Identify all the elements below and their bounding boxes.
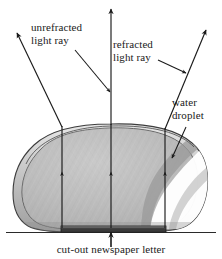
label-refracted-light-ray: refracted light ray: [113, 38, 153, 64]
leader-unrefracted-label: [75, 50, 110, 92]
label-unrefracted-line1: unrefracted: [31, 21, 82, 34]
label-water-droplet-line2: droplet: [172, 109, 204, 122]
water-droplet-shape: [12, 124, 212, 232]
label-unrefracted-light-ray: unrefracted light ray: [31, 21, 82, 47]
label-water-droplet: water droplet: [172, 96, 204, 122]
cut-out-newspaper-letter: [61, 226, 166, 232]
label-water-droplet-line1: water: [172, 96, 204, 109]
label-refracted-line2: light ray: [113, 51, 153, 64]
leader-refracted-label: [158, 60, 186, 73]
refracted-ray-left: [17, 33, 62, 127]
caption-cut-out-newspaper-letter: cut-out newspaper letter: [0, 243, 222, 256]
label-unrefracted-line2: light ray: [31, 34, 82, 47]
figure-container: unrefracted light ray refracted light ra…: [0, 0, 222, 259]
label-refracted-line1: refracted: [113, 38, 153, 51]
